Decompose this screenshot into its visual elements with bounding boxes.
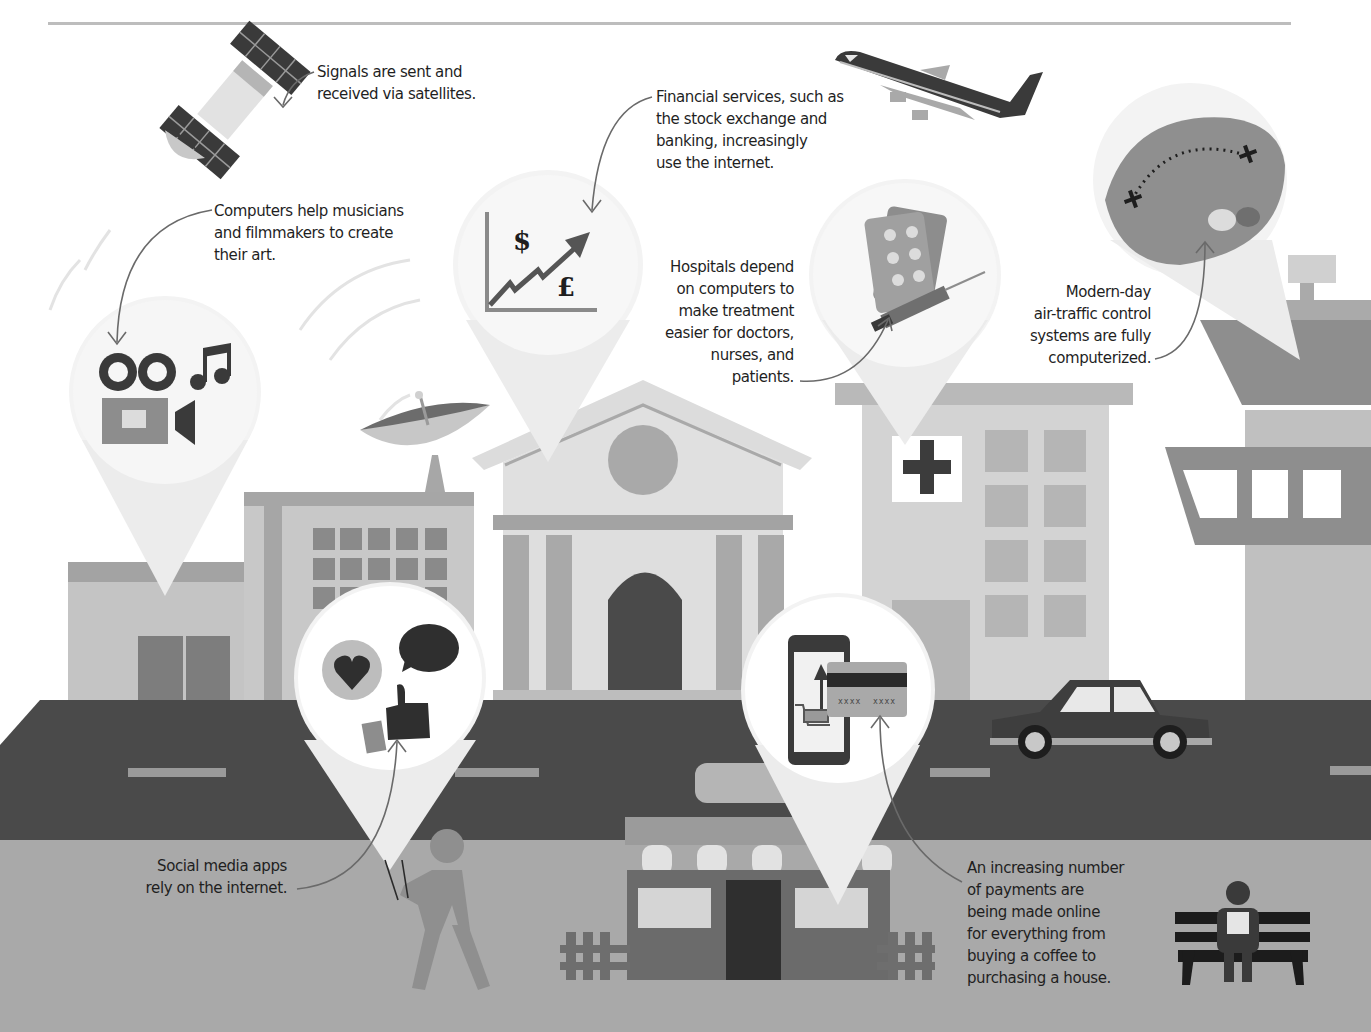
caption-finance: Financial services, such as the stock ex… — [656, 86, 844, 174]
bank-door — [608, 573, 682, 701]
pin-arts — [69, 296, 261, 596]
satellite-dish-icon — [360, 391, 490, 492]
caption-hospitals: Hospitals depend on computers to make tr… — [665, 256, 794, 388]
shop-door — [726, 880, 781, 980]
dollar-symbol: $ — [513, 226, 531, 256]
caption-satellites: Signals are sent and received via satell… — [317, 61, 476, 105]
credit-card-icon — [827, 662, 907, 717]
pound-symbol: £ — [557, 272, 575, 302]
card-number: xxxx xxxx — [838, 697, 896, 706]
caption-arts: Computers help musicians and filmmakers … — [214, 200, 404, 266]
airplane-icon — [835, 51, 1043, 120]
caption-payments: An increasing number of payments are bei… — [967, 857, 1124, 989]
caption-air-traffic: Modern-day air-traffic control systems a… — [1030, 281, 1151, 369]
top-divider — [48, 22, 1291, 25]
caption-social: Social media apps rely on the internet. — [146, 855, 287, 899]
